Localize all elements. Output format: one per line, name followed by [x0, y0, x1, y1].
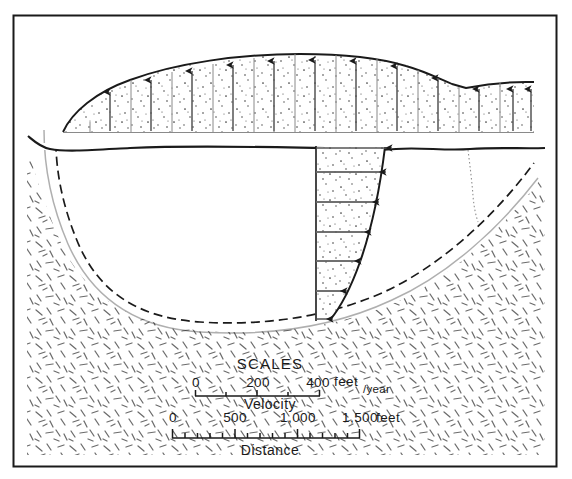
distance-caption: Distance: [241, 442, 299, 458]
distance-tick-label-1000: 1,000: [280, 410, 316, 425]
distance-tick-label-0: 0: [169, 410, 177, 425]
glacier-cross-section-figure: SCALES 0 200 400 feet /year Velocity: [0, 0, 572, 479]
scales-title: SCALES: [237, 355, 303, 372]
distance-tick-label-1500: 1,500: [342, 410, 378, 425]
velocity-unit-main: feet: [334, 374, 358, 389]
distance-tick-label-500: 500: [223, 410, 247, 425]
velocity-unit-sub: /year: [363, 383, 390, 395]
depth-velocity-profile: [316, 146, 392, 321]
borehole-trace: [468, 150, 478, 222]
velocity-tick-label-400: 400: [306, 375, 330, 390]
velocity-tick-label-200: 200: [246, 375, 270, 390]
velocity-tick-label-0: 0: [192, 375, 200, 390]
distance-unit-main: feet: [376, 410, 400, 425]
figure-svg: SCALES 0 200 400 feet /year Velocity: [0, 0, 572, 479]
surface-velocity-block: [63, 54, 534, 133]
